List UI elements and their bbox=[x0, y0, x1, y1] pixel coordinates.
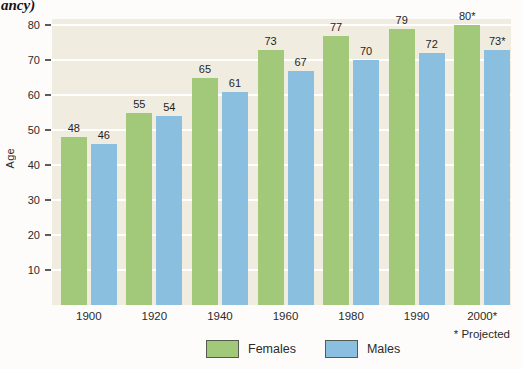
y-tick-label: 50 bbox=[0, 123, 40, 137]
y-tick-label: 20 bbox=[0, 228, 40, 242]
bar-females-2000* bbox=[454, 25, 480, 305]
bar-males-1940 bbox=[222, 92, 248, 306]
x-tick-label: 1920 bbox=[122, 310, 186, 322]
bar-males-1960 bbox=[288, 71, 314, 306]
bar-females-1940 bbox=[192, 78, 218, 306]
plot-area: 48465554656173677770797280*73* bbox=[52, 19, 511, 305]
y-tick-mark bbox=[45, 59, 51, 61]
bar-value-label: 73* bbox=[477, 35, 517, 47]
x-tick-label: 1940 bbox=[188, 310, 252, 322]
bar-value-label: 73 bbox=[251, 35, 291, 47]
x-tick-label: 2000* bbox=[450, 310, 514, 322]
y-tick-label: 40 bbox=[0, 158, 40, 172]
bar-females-1990 bbox=[389, 29, 415, 306]
bar-males-1990 bbox=[419, 53, 445, 305]
bar-females-1980 bbox=[323, 36, 349, 306]
bar-value-label: 70 bbox=[346, 45, 386, 57]
y-tick-label: 80 bbox=[0, 18, 40, 32]
y-tick-mark bbox=[45, 199, 51, 201]
x-tick-label: 1960 bbox=[254, 310, 318, 322]
y-tick-mark bbox=[45, 94, 51, 96]
x-tick-label: 1900 bbox=[57, 310, 121, 322]
legend-label-females: Females bbox=[248, 342, 296, 356]
bar-value-label: 72 bbox=[412, 38, 452, 50]
y-tick-label: 70 bbox=[0, 53, 40, 67]
bar-value-label: 65 bbox=[185, 63, 225, 75]
legend: FemalesMales bbox=[206, 340, 429, 358]
y-tick-mark bbox=[45, 24, 51, 26]
bar-males-1920 bbox=[156, 116, 182, 305]
bar-females-1900 bbox=[61, 137, 87, 305]
y-tick-label: 10 bbox=[0, 263, 40, 277]
bar-value-label: 80* bbox=[447, 10, 487, 22]
footnote: * Projected bbox=[396, 328, 510, 340]
chart-canvas: ancy) Age 48465554656173677770797280*73*… bbox=[0, 0, 522, 369]
bar-value-label: 54 bbox=[149, 101, 189, 113]
bar-males-1980 bbox=[353, 60, 379, 305]
title-fragment: ancy) bbox=[1, 0, 35, 14]
bar-females-1920 bbox=[126, 113, 152, 306]
legend-swatch-females bbox=[206, 340, 239, 358]
bar-males-1900 bbox=[91, 144, 117, 305]
gridline bbox=[52, 24, 511, 26]
bar-value-label: 61 bbox=[215, 77, 255, 89]
legend-swatch-males bbox=[325, 340, 358, 358]
y-tick-label: 60 bbox=[0, 88, 40, 102]
y-tick-mark bbox=[45, 269, 51, 271]
legend-label-males: Males bbox=[367, 342, 400, 356]
bar-males-2000* bbox=[484, 50, 510, 306]
y-tick-mark bbox=[45, 234, 51, 236]
bar-females-1960 bbox=[258, 50, 284, 306]
x-tick-label: 1980 bbox=[319, 310, 383, 322]
bar-value-label: 79 bbox=[382, 14, 422, 26]
bar-value-label: 46 bbox=[84, 129, 124, 141]
y-tick-mark bbox=[45, 164, 51, 166]
bar-value-label: 67 bbox=[281, 56, 321, 68]
x-tick-label: 1990 bbox=[385, 310, 449, 322]
y-tick-label: 30 bbox=[0, 193, 40, 207]
bar-value-label: 77 bbox=[316, 21, 356, 33]
y-tick-mark bbox=[45, 129, 51, 131]
